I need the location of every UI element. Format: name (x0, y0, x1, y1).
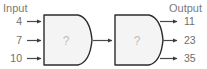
input-header: Input (3, 2, 27, 14)
output-value-3: 35 (184, 52, 196, 64)
function-machine-1-label: ? (63, 34, 70, 48)
input-value-3: 10 (10, 52, 22, 64)
function-machine-2-label: ? (134, 34, 141, 48)
input-value-1: 4 (16, 15, 22, 27)
output-header: Output (169, 2, 202, 14)
function-machine-diagram: Input Output 4 7 10 ? ? 11 23 35 (0, 0, 207, 69)
output-value-2: 23 (184, 34, 196, 46)
input-value-2: 7 (16, 34, 22, 46)
output-value-1: 11 (184, 15, 195, 27)
diagram-canvas: Input Output 4 7 10 ? ? 11 23 35 (0, 0, 207, 69)
